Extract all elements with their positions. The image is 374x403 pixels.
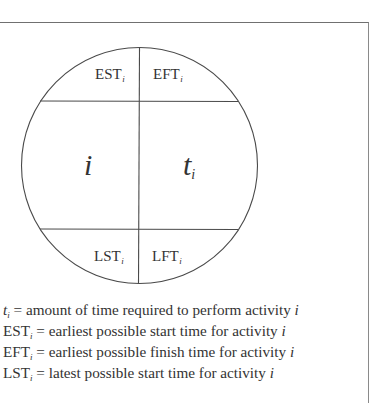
legend-text: = latest possible start time for activit… xyxy=(33,364,270,381)
eft-label: EFTi xyxy=(153,67,183,84)
legend-var: i xyxy=(295,301,299,318)
legend-var: i xyxy=(282,322,286,339)
lst-base: LST xyxy=(94,248,121,264)
lft-base: LFT xyxy=(152,248,179,264)
est-sub: i xyxy=(122,74,125,84)
legend-row-eft: EFTi = earliest possible finish time for… xyxy=(3,341,299,362)
est-label: ESTi xyxy=(95,67,125,84)
lst-label: LSTi xyxy=(94,249,124,266)
legend-row-lst: LSTi = latest possible start time for ac… xyxy=(3,362,299,383)
lft-label: LFTi xyxy=(152,249,182,266)
legend-symbol: LST xyxy=(3,364,30,381)
legend-row-est: ESTi = earliest possible start time for … xyxy=(3,320,299,341)
legend-row-duration: ti = amount of time required to perform … xyxy=(3,299,299,320)
legend-text: = amount of time required to perform act… xyxy=(10,301,295,318)
activity-duration-label: ti xyxy=(183,150,195,182)
legend-var: i xyxy=(270,364,274,381)
est-base: EST xyxy=(95,66,122,82)
duration-sub: i xyxy=(191,167,195,182)
vertical-divider xyxy=(139,48,140,284)
activity-index: i xyxy=(84,148,92,181)
legend-symbol: EFT xyxy=(3,343,30,360)
legend-text: = earliest possible finish time for acti… xyxy=(33,343,290,360)
eft-sub: i xyxy=(180,74,183,84)
lft-sub: i xyxy=(179,256,182,266)
legend: ti = amount of time required to perform … xyxy=(3,299,299,383)
legend-symbol: EST xyxy=(3,322,30,339)
activity-index-label: i xyxy=(84,150,92,180)
legend-var: i xyxy=(290,343,294,360)
legend-text: = earliest possible start time for activ… xyxy=(33,322,282,339)
eft-base: EFT xyxy=(153,66,180,82)
lst-sub: i xyxy=(121,256,124,266)
